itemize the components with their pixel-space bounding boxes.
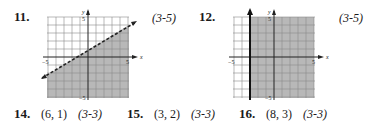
x-arrow-icon [132,55,138,59]
section-ref-14: (3-3) [78,107,102,122]
y-max-label: 5 [268,16,271,22]
section-ref-16: (3-3) [303,107,327,122]
y-min-label: −5 [79,95,85,100]
problem-number-14: 14. [14,106,30,122]
x-arrow-icon [318,55,324,59]
section-ref-15: (3-3) [191,107,215,122]
x-max-label: 5 [312,59,315,65]
problem-number-15: 15. [127,106,143,122]
x-min-label: −5 [42,59,48,65]
x-max-label: 5 [126,59,129,65]
graph-11: x y −5 5 5 −5 [35,0,175,100]
point-15: (3, 2) [154,107,180,122]
problem-number-11: 11. [14,9,30,25]
y-axis-label: y [267,9,271,15]
x-min-label: −5 [228,59,234,65]
y-min-label: −5 [265,95,271,100]
point-14: (6, 1) [41,107,67,122]
line-arrow-icon [131,21,137,26]
y-arrow-icon [86,9,90,15]
y-arrow-icon [272,9,276,15]
y-axis-label: y [81,9,85,15]
x-axis-label: x [325,54,329,60]
x-axis-label: x [139,54,143,60]
line-arrow-icon [247,8,253,15]
problem-number-12: 12. [199,9,215,25]
problem-number-16: 16. [239,106,255,122]
graph-12: x y −5 5 5 −5 [221,0,361,100]
y-max-label: 5 [82,16,85,22]
point-16: (8, 3) [266,107,292,122]
